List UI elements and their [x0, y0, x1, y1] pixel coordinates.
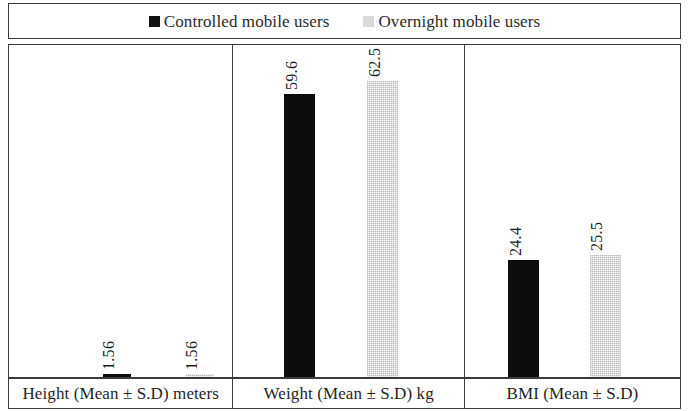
plot-panels: 1.56 1.56 59.6	[9, 45, 680, 377]
legend-swatch-light-icon	[363, 16, 374, 27]
legend-label-overnight: Overnight mobile users	[378, 13, 540, 30]
legend-entry-controlled: Controlled mobile users	[149, 13, 330, 30]
legend-entry-overnight: Overnight mobile users	[363, 13, 540, 30]
group-panel-weight: 59.6 62.5	[232, 45, 463, 377]
bar-chart: Controlled mobile users Overnight mobile…	[0, 0, 689, 411]
bar-value-bmi-controlled: 24.4	[508, 227, 524, 256]
bar-value-height-controlled: 1.56	[101, 340, 117, 369]
bars-wrap-height: 1.56 1.56	[9, 45, 232, 377]
legend-items: Controlled mobile users Overnight mobile…	[149, 13, 540, 30]
bar-weight-controlled[interactable]: 59.6	[284, 94, 315, 377]
group-panel-bmi: 24.4 25.5	[464, 45, 680, 377]
bar-height-overnight[interactable]: 1.56	[186, 374, 215, 377]
category-axis: Height (Mean ± S.D) meters Weight (Mean …	[8, 379, 681, 409]
group-panel-height: 1.56 1.56	[9, 45, 232, 377]
axis-label-weight: Weight (Mean ± S.D) kg	[232, 379, 463, 408]
bar-height-controlled[interactable]: 1.56	[103, 374, 132, 377]
bar-bmi-controlled[interactable]: 24.4	[508, 260, 539, 377]
bar-value-weight-overnight: 62.5	[367, 47, 383, 76]
legend-swatch-dark-icon	[149, 16, 160, 27]
bars-wrap-weight: 59.6 62.5	[233, 45, 463, 377]
chart-legend: Controlled mobile users Overnight mobile…	[8, 3, 681, 39]
axis-label-bmi: BMI (Mean ± S.D)	[464, 379, 680, 408]
bars-wrap-bmi: 24.4 25.5	[465, 45, 680, 377]
bar-value-height-overnight: 1.56	[184, 341, 200, 370]
bar-value-weight-controlled: 59.6	[284, 61, 300, 90]
bar-value-bmi-overnight: 25.5	[589, 222, 605, 251]
legend-label-controlled: Controlled mobile users	[164, 13, 330, 30]
plot-area: 1.56 1.56 59.6	[8, 44, 681, 379]
bar-weight-overnight[interactable]: 62.5	[367, 81, 398, 377]
axis-label-height: Height (Mean ± S.D) meters	[9, 379, 232, 408]
bar-bmi-overnight[interactable]: 25.5	[590, 255, 621, 377]
